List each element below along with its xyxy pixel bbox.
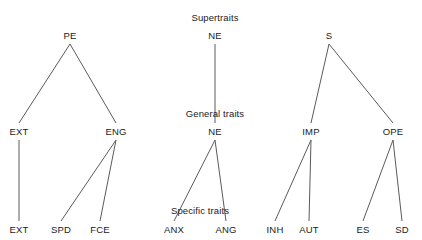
- node-ne-ang-leaf: ANG: [215, 224, 236, 235]
- tree-edge: [70, 44, 116, 123]
- tier-label-general-traits: General traits: [186, 108, 244, 119]
- hierarchical-trait-diagram: PEEXTENGEXTSPDFCENENEANXANGSIMPOPEINHAUT…: [0, 0, 422, 240]
- node-s-root: S: [326, 30, 333, 41]
- node-s-es-leaf: ES: [356, 224, 369, 235]
- node-ne-anx-leaf: ANX: [164, 224, 184, 235]
- node-pe-fce-leaf: FCE: [90, 224, 110, 235]
- node-s-sd-leaf: SD: [395, 224, 409, 235]
- tier-label-supertraits: Supertraits: [191, 12, 238, 23]
- tree-edge: [309, 140, 311, 221]
- tier-label-specific-traits: Specific traits: [171, 205, 229, 216]
- tree-edge: [329, 44, 393, 123]
- node-pe-root: PE: [63, 30, 76, 41]
- tree-edge: [393, 140, 402, 221]
- node-s-inh-leaf: INH: [267, 224, 284, 235]
- node-pe-eng: ENG: [105, 126, 126, 137]
- tree-edge: [275, 140, 311, 221]
- node-ne-root: NE: [208, 30, 222, 41]
- node-s-ope: OPE: [383, 126, 404, 137]
- tree-edge: [363, 140, 393, 221]
- node-s-imp: IMP: [302, 126, 320, 137]
- node-pe-spd-leaf: SPD: [51, 224, 71, 235]
- node-pe-ext-leaf: EXT: [9, 224, 28, 235]
- node-s-aut-leaf: AUT: [299, 224, 319, 235]
- tree-edge: [19, 44, 70, 123]
- node-ne-general: NE: [208, 126, 222, 137]
- node-pe-ext: EXT: [9, 126, 28, 137]
- tree-edge: [311, 44, 329, 123]
